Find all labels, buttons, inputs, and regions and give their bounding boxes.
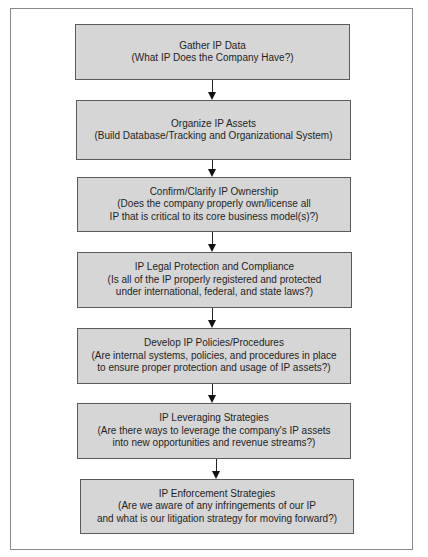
flow-step-ip-legal-protection: IP Legal Protection and Compliance (Is a… — [77, 252, 352, 308]
step-description: (What IP Does the Company Have?) — [131, 52, 293, 65]
step-description: (Build Database/Tracking and Organizatio… — [94, 130, 332, 143]
step-description-line-2: into new opportunities and revenue strea… — [113, 437, 316, 450]
flow-arrow-down-icon — [207, 232, 217, 252]
flow-arrow-down-icon — [207, 308, 217, 328]
flow-step-ip-enforcement-strategies: IP Enforcement Strategies (Are we aware … — [80, 479, 354, 534]
flow-arrow-down-icon — [211, 459, 221, 479]
step-description-line-1: (Does the company properly own/license a… — [117, 198, 310, 211]
step-title: IP Leveraging Strategies — [159, 412, 268, 425]
flow-step-gather-ip-data: Gather IP Data (What IP Does the Company… — [75, 24, 350, 80]
step-title: Organize IP Assets — [171, 118, 256, 131]
step-title: Develop IP Policies/Procedures — [144, 337, 284, 350]
flow-arrow-down-icon — [207, 160, 217, 177]
step-title: Confirm/Clarify IP Ownership — [150, 186, 279, 199]
step-description-line-1: (Are we aware of any infringements of ou… — [118, 500, 316, 513]
step-title: IP Enforcement Strategies — [159, 488, 276, 501]
flow-arrow-down-icon — [207, 80, 217, 100]
step-description-line-2: under international, federal, and state … — [116, 286, 313, 299]
step-description-line-2: to ensure proper protection and usage of… — [97, 362, 330, 375]
step-description-line-1: (Are there ways to leverage the company'… — [98, 425, 331, 438]
step-description-line-1: (Are internal systems, policies, and pro… — [91, 350, 336, 363]
flow-step-organize-ip-assets: Organize IP Assets (Build Database/Track… — [76, 100, 351, 160]
flow-step-ip-leveraging-strategies: IP Leveraging Strategies (Are there ways… — [77, 403, 351, 459]
step-description-line-2: and what is our litigation strategy for … — [97, 513, 337, 526]
step-description-line-1: (Is all of the IP properly registered an… — [108, 274, 322, 287]
flow-arrow-down-icon — [207, 384, 217, 403]
step-title: IP Legal Protection and Compliance — [135, 261, 294, 274]
step-description-line-2: IP that is critical to its core business… — [110, 211, 319, 224]
flow-step-confirm-ip-ownership: Confirm/Clarify IP Ownership (Does the c… — [77, 177, 351, 232]
flow-step-develop-ip-policies: Develop IP Policies/Procedures (Are inte… — [77, 328, 351, 384]
step-title: Gather IP Data — [179, 40, 246, 53]
